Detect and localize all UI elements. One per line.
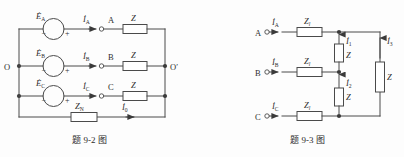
- line-current-c-phasor-dot: .: [274, 97, 276, 105]
- node-o-label: O: [4, 62, 10, 72]
- terminal-open-c: [99, 94, 103, 98]
- branch-impedance-3: [376, 62, 385, 92]
- load-b-label: Z: [131, 50, 136, 60]
- current-b-phasor-dot: .: [85, 47, 87, 55]
- figure-page: EA . − + IA . A Z O O′ EB: [0, 0, 404, 157]
- current-a-phasor-dot: .: [85, 10, 87, 18]
- current-c-phasor-dot: .: [85, 77, 87, 85]
- branch-impedance-1-label: Z: [346, 50, 351, 60]
- source-b-phasor-dot: .: [39, 44, 41, 52]
- branch-impedance-3-label: Z: [387, 72, 392, 82]
- figure-9-2: EA . − + IA . A Z O O′ EB: [4, 7, 178, 145]
- source-c-minus-sign: −: [42, 96, 47, 105]
- node-b-right: [337, 70, 341, 74]
- terminal-label-c-right: C: [255, 112, 261, 122]
- line-impedance-a: [297, 28, 322, 37]
- caption-figure-9-2: 题9-2图: [72, 135, 107, 145]
- line-impedance-b: [297, 68, 322, 77]
- line-impedance-a-label: Zl: [304, 16, 311, 27]
- line-impedance-c-label: Zl: [304, 100, 311, 111]
- node-a-right: [337, 30, 341, 34]
- source-c-plus-sign: +: [65, 96, 70, 105]
- terminal-label-b: B: [108, 52, 114, 62]
- node-o-prime: [163, 64, 167, 68]
- terminal-label-c: C: [108, 82, 114, 92]
- load-impedance-b: [123, 62, 147, 71]
- load-impedance-c: [123, 92, 147, 101]
- source-symbol-a: [43, 19, 64, 40]
- line-impedance-c: [297, 112, 322, 121]
- terminal-label-b-right: B: [255, 68, 261, 78]
- branch-impedance-2-label: Z: [346, 92, 351, 102]
- source-b-minus-sign: −: [42, 66, 47, 75]
- line-impedance-b-label: Zl: [304, 56, 311, 67]
- branch-impedance-1: [335, 44, 344, 62]
- figure-9-3: A IA . Zl B IB . Zl: [255, 13, 393, 145]
- source-symbol-c: [43, 86, 64, 107]
- terminal-open-a: [99, 27, 103, 31]
- circuit-diagrams-svg: EA . − + IA . A Z O O′ EB: [0, 0, 404, 157]
- source-symbol-b: [43, 56, 64, 77]
- load-c-label: Z: [131, 80, 136, 90]
- terminal-label-a: A: [108, 15, 115, 25]
- node-o-prime-label: O′: [170, 62, 178, 72]
- source-a-phasor-dot: .: [39, 7, 41, 15]
- source-c-phasor-dot: .: [39, 74, 41, 82]
- node-right-bus-c: [163, 94, 167, 98]
- neutral-impedance-label: ZN: [75, 101, 84, 112]
- source-b-plus-sign: +: [65, 66, 70, 75]
- line-current-a-phasor-dot: .: [274, 13, 276, 21]
- terminal-open-a-right: [265, 30, 269, 34]
- terminal-label-a-right: A: [255, 28, 262, 38]
- branch-current-3-phasor-dot: .: [389, 32, 391, 40]
- terminal-open-c-right: [265, 114, 269, 118]
- branch-current-2-phasor-dot: .: [348, 74, 350, 82]
- branch-impedance-2: [335, 88, 344, 106]
- terminal-open-b-right: [265, 70, 269, 74]
- source-a-minus-sign: −: [42, 29, 47, 38]
- terminal-open-b: [99, 64, 103, 68]
- load-impedance-a: [123, 25, 147, 34]
- neutral-current-phasor-dot: .: [124, 98, 126, 106]
- caption-figure-9-3: 题9-3图: [290, 135, 325, 145]
- source-a-plus-sign: +: [65, 29, 70, 38]
- branch-current-1-phasor-dot: .: [348, 32, 350, 40]
- load-a-label: Z: [131, 13, 136, 23]
- neutral-impedance-box: [71, 113, 97, 122]
- node-c-right: [337, 114, 341, 118]
- line-current-b-phasor-dot: .: [274, 53, 276, 61]
